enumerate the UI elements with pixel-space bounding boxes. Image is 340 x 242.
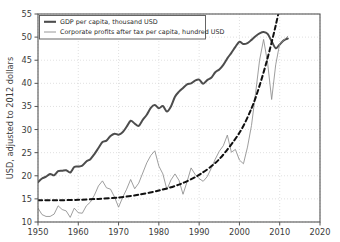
x-tick-label: 1970: [108, 227, 129, 237]
x-tick-label: 1990: [189, 227, 210, 237]
y-tick-label: 15: [22, 194, 32, 204]
y-tick-label: 45: [22, 55, 32, 65]
x-tick-label: 2010: [269, 227, 290, 237]
chart-figure: 19501960197019801990200020102020 1015202…: [0, 0, 340, 242]
chart-legend[interactable]: GDP per capita, thousand USD Corporate p…: [40, 16, 225, 40]
legend-label-profits: Corporate profits after tax per capita, …: [60, 28, 225, 36]
legend-label-gdp: GDP per capita, thousand USD: [60, 18, 158, 26]
y-tick-label: 30: [22, 125, 32, 135]
y-tick-label: 55: [22, 9, 32, 19]
y-tick-label: 25: [22, 148, 32, 158]
y-tick-label: 20: [22, 171, 32, 181]
x-tick-label: 1980: [148, 227, 169, 237]
x-tick-label: 2000: [229, 227, 250, 237]
x-tick-label: 2020: [310, 227, 331, 237]
y-tick-label: 10: [22, 217, 32, 227]
y-axis-title: USD, adjusted to 2012 dollars: [5, 57, 15, 179]
chart-svg: 19501960197019801990200020102020 1015202…: [0, 0, 340, 242]
y-tick-label: 35: [22, 101, 32, 111]
x-tick-label: 1960: [68, 227, 89, 237]
x-tick-label: 1950: [28, 227, 49, 237]
y-tick-label: 50: [22, 32, 32, 42]
plot-background: [38, 14, 320, 222]
y-tick-label: 40: [22, 78, 32, 88]
